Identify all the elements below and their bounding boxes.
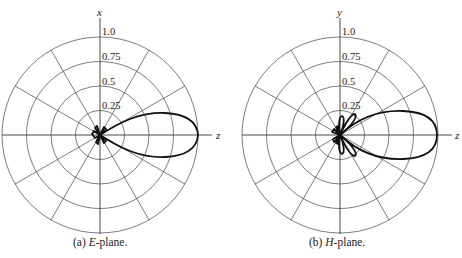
figure-canvas: x z 1.0 0.75 0.5 0.25 y: [0, 0, 462, 258]
e-plane-caption-suffix: -plane.: [96, 236, 128, 248]
e-plane-labels: x z 1.0 0.75 0.5 0.25: [96, 6, 221, 141]
e-plane-caption-prefix: (a): [73, 236, 86, 248]
e-plane-tick-075: 0.75: [102, 51, 120, 62]
h-plane-tick-1: 1.0: [342, 26, 355, 37]
h-plane-caption-prefix: (b): [309, 236, 322, 248]
h-plane-caption-suffix: -plane.: [334, 236, 366, 248]
h-plane-caption: (b) H-plane.: [309, 236, 365, 248]
h-plane-caption-plane: H: [325, 236, 333, 248]
h-plane-vertical-axis-label: y: [336, 6, 342, 18]
e-plane-horizontal-axis-label: z: [215, 129, 221, 141]
h-plane-tick-075: 0.75: [342, 51, 360, 62]
h-plane-tick-025: 0.25: [342, 100, 360, 111]
e-plane-tick-1: 1.0: [102, 26, 115, 37]
e-plane-vertical-axis-label: x: [96, 6, 102, 18]
h-plane-horizontal-axis-label: z: [454, 129, 460, 141]
e-plane-caption: (a) E-plane.: [73, 236, 127, 248]
e-plane-tick-05: 0.5: [102, 76, 115, 87]
e-plane-caption-plane: E: [89, 236, 96, 248]
h-plane-tick-05: 0.5: [342, 76, 355, 87]
e-plane-tick-025: 0.25: [102, 100, 120, 111]
